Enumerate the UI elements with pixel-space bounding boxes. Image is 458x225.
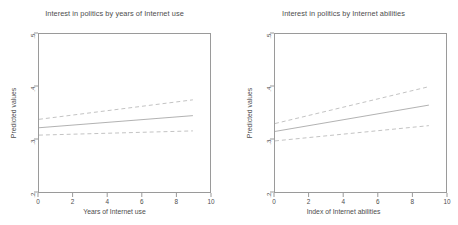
x-axis-title-left: Years of Internet use xyxy=(0,208,229,215)
x-tick-label-left-1: 2 xyxy=(66,198,80,205)
x-tick-label-left-4: 8 xyxy=(169,198,183,205)
panel-title-left: Interest in politics by years of Interne… xyxy=(0,9,229,18)
plot-area-left xyxy=(38,33,211,193)
y-tick-label-left-1: .4 xyxy=(29,87,36,101)
fit-line-left xyxy=(39,116,193,128)
chart-panel-right: Interest in politics by Internet abiliti… xyxy=(229,0,458,225)
x-axis-title-right: Index of Internet abilities xyxy=(229,208,458,215)
x-tick-label-right-4: 8 xyxy=(405,198,419,205)
figure-container: Interest in politics by years of Interne… xyxy=(0,0,458,225)
y-axis-title-right: Predicted values xyxy=(246,33,258,193)
y-tick-label-left-0: .5 xyxy=(29,34,36,48)
x-tick-label-left-5: 10 xyxy=(204,198,218,205)
y-tick-label-right-1: .4 xyxy=(265,87,272,101)
x-tick-label-left-0: 0 xyxy=(31,198,45,205)
y-tick-label-right-0: .5 xyxy=(265,34,272,48)
chart-panel-left: Interest in politics by years of Interne… xyxy=(0,0,229,225)
x-tick-label-right-1: 2 xyxy=(302,198,316,205)
x-tick-label-right-3: 6 xyxy=(371,198,385,205)
plot-lines-right xyxy=(275,34,446,192)
x-tick-label-right-0: 0 xyxy=(267,198,281,205)
plot-area-right xyxy=(274,33,447,193)
x-tick-label-left-3: 6 xyxy=(135,198,149,205)
x-tick-label-right-2: 4 xyxy=(336,198,350,205)
y-tick-label-left-2: .3 xyxy=(29,140,36,154)
plot-lines-left xyxy=(39,34,210,192)
ci-lower-line-left xyxy=(39,131,193,135)
y-tick-label-right-2: .3 xyxy=(265,140,272,154)
x-tick-label-left-2: 4 xyxy=(100,198,114,205)
panel-title-right: Interest in politics by Internet abiliti… xyxy=(229,9,458,18)
ci-upper-line-left xyxy=(39,100,193,119)
x-tick-label-right-5: 10 xyxy=(440,198,454,205)
y-axis-title-left: Predicted values xyxy=(10,33,22,193)
